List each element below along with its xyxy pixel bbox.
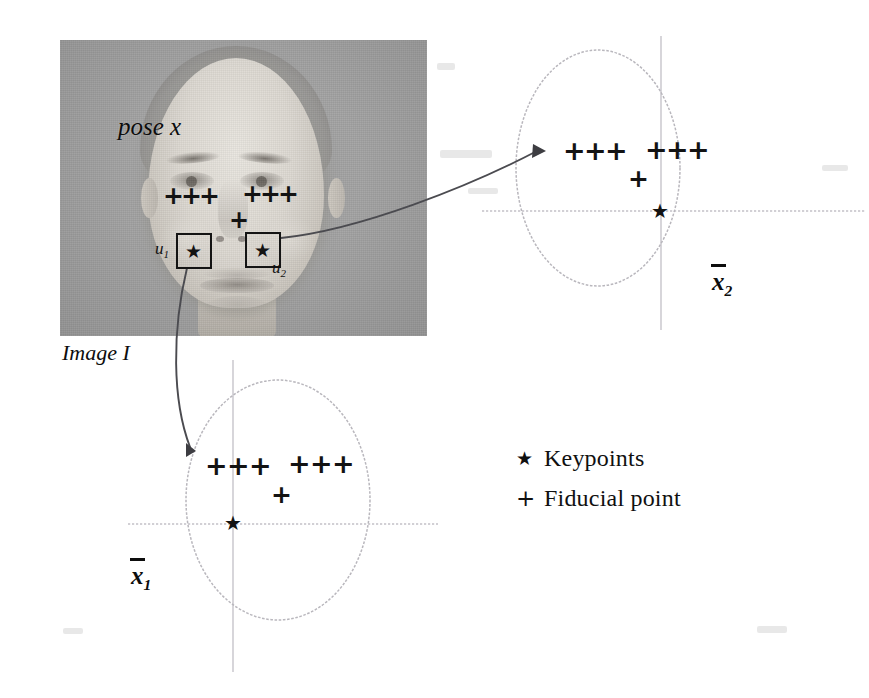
fiducial-plus-icon: +	[584, 137, 607, 164]
keypoint-label-u1: u1	[155, 239, 169, 260]
fiducial-plus-icon: +	[288, 450, 311, 477]
keypoint-star-icon: ★	[651, 201, 669, 221]
fiducial-plus-icon: +	[271, 482, 292, 507]
keypoint-star-icon: ★	[224, 513, 242, 533]
pose-label: pose x	[118, 113, 181, 141]
fiducial-plus-icon: +	[205, 452, 228, 479]
keypoint-star-icon: ★	[185, 242, 202, 261]
fiducial-plus-icon: +	[628, 166, 649, 191]
figure-root: + + + + + + + ★ u1 ★ u2 + + + + + + + ★ …	[0, 0, 869, 698]
keypoint-label-u2: u2	[272, 258, 286, 279]
fiducial-plus-icon: +	[310, 450, 333, 477]
u2-base: u	[272, 258, 281, 277]
fiducial-plus-icon: +	[227, 452, 250, 479]
fiducial-plus-icon: +	[687, 136, 710, 163]
fiducial-plus-icon: +	[645, 136, 668, 163]
fiducial-plus-icon: +	[666, 136, 689, 163]
fiducial-plus-icon: +	[332, 450, 355, 477]
u1-sub: 1	[164, 248, 170, 260]
u2-sub: 2	[281, 267, 287, 279]
fiducial-plus-icon: +	[229, 208, 249, 232]
u1-base: u	[155, 239, 164, 258]
fiducial-plus-icon: +	[249, 452, 272, 479]
fiducial-plus-icon: +	[563, 137, 586, 164]
fiducial-plus-icon: +	[199, 183, 220, 208]
fiducial-plus-icon: +	[605, 137, 628, 164]
annotation-layer: + + + + + + + ★ u1 ★ u2 + + + + + + + ★ …	[0, 0, 869, 698]
fiducial-plus-icon: +	[278, 181, 299, 206]
keypoint-star-icon: ★	[254, 241, 271, 260]
